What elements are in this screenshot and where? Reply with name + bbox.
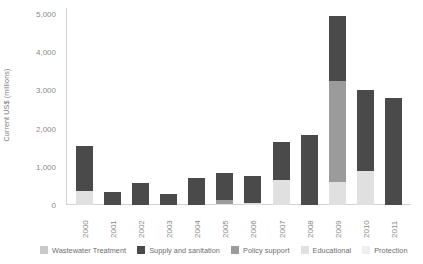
x-tick-label: 2005 [221, 220, 230, 238]
y-tick-label: 3,000 [10, 86, 56, 95]
bar-slot [273, 14, 291, 205]
x-slot: 2007 [273, 205, 291, 245]
bar-slot [329, 14, 347, 205]
legend-label: Policy support [243, 246, 290, 255]
bar-slot [244, 14, 262, 205]
bar-2006[interactable] [244, 176, 261, 205]
legend-label: Wastewater Treatment [52, 246, 126, 255]
bar-segment [160, 194, 177, 205]
bar-2002[interactable] [132, 183, 149, 205]
legend-item[interactable]: Protection [362, 246, 407, 255]
y-tick-label: 4,000 [10, 48, 56, 57]
bar-2007[interactable] [273, 142, 290, 205]
bar-slot [104, 14, 122, 205]
x-tick-label: 2007 [278, 220, 287, 238]
x-tick-label: 2004 [193, 220, 202, 238]
legend-swatch-icon [301, 246, 309, 254]
bar-2003[interactable] [160, 194, 177, 205]
bar-segment [273, 142, 290, 180]
bar-2005[interactable] [216, 173, 233, 205]
bar-2011[interactable] [385, 98, 402, 205]
bar-segment [329, 182, 346, 205]
bar-segment [273, 180, 290, 205]
bar-segment [132, 183, 149, 205]
bar-slot [160, 14, 178, 205]
x-slot: 2003 [160, 205, 178, 245]
x-tick-label: 2000 [81, 220, 90, 238]
bar-segment [329, 81, 346, 182]
y-axis-tick-labels: 01,0002,0003,0004,0005,000 [0, 14, 56, 205]
x-tick-label: 2009 [334, 220, 343, 238]
bar-slot [188, 14, 206, 205]
bar-segment [301, 135, 318, 205]
bar-slot [301, 14, 319, 205]
bar-slot [385, 14, 403, 205]
bar-segment [385, 98, 402, 205]
x-slot: 2008 [301, 205, 319, 245]
legend-item[interactable]: Policy support [231, 246, 290, 255]
x-tick-label: 2003 [165, 220, 174, 238]
bar-segment [188, 178, 205, 205]
x-slot: 2004 [188, 205, 206, 245]
bar-segment [104, 192, 121, 205]
bar-segment [329, 16, 346, 81]
x-slot: 2001 [104, 205, 122, 245]
bar-slot [76, 14, 94, 205]
bar-2009[interactable] [329, 16, 346, 205]
x-tick-label: 2002 [137, 220, 146, 238]
x-slot: 2002 [132, 205, 150, 245]
y-tick-label: 2,000 [10, 124, 56, 133]
legend-label: Supply and sanitation [149, 246, 220, 255]
legend-item[interactable]: Wastewater Treatment [40, 246, 126, 255]
legend-swatch-icon [137, 246, 145, 254]
x-tick-label: 2010 [362, 220, 371, 238]
legend-item[interactable]: Supply and sanitation [137, 246, 220, 255]
x-tick-label: 2001 [109, 220, 118, 238]
x-axis-tick-labels: 2000200120022003200420052006200720082009… [66, 205, 411, 245]
bar-segment [357, 171, 374, 205]
x-tick-label: 2011 [390, 221, 399, 238]
x-slot: 2010 [357, 205, 375, 245]
y-tick-label: 0 [10, 201, 56, 210]
bar-segment [244, 176, 261, 202]
legend-label: Protection [374, 246, 407, 255]
plot-area [66, 14, 411, 205]
bar-segment [76, 191, 93, 205]
bar-2010[interactable] [357, 90, 374, 205]
bar-2000[interactable] [76, 146, 93, 205]
legend-item[interactable]: Educational [301, 246, 352, 255]
y-tick-label: 5,000 [10, 10, 56, 19]
bar-slot [216, 14, 234, 205]
legend-label: Educational [313, 246, 352, 255]
y-tick-label: 1,000 [10, 162, 56, 171]
bar-2004[interactable] [188, 178, 205, 205]
x-tick-label: 2006 [249, 220, 258, 238]
x-tick-label: 2008 [306, 220, 315, 238]
bar-slot [357, 14, 375, 205]
bar-slot [132, 14, 150, 205]
x-slot: 2005 [216, 205, 234, 245]
legend-swatch-icon [231, 246, 239, 254]
bar-segment [357, 90, 374, 170]
legend-swatch-icon [40, 246, 48, 254]
bar-segment [216, 173, 233, 200]
stacked-bar-chart: Current US$ (millions) 01,0002,0003,0004… [0, 0, 423, 264]
x-slot: 2009 [329, 205, 347, 245]
x-slot: 2011 [385, 205, 403, 245]
bar-2008[interactable] [301, 135, 318, 205]
chart-legend: Wastewater TreatmentSupply and sanitatio… [40, 243, 410, 257]
bar-segment [76, 146, 93, 191]
bar-2001[interactable] [104, 192, 121, 205]
x-slot: 2006 [244, 205, 262, 245]
legend-swatch-icon [362, 246, 370, 254]
bar-group [66, 14, 411, 205]
x-slot: 2000 [76, 205, 94, 245]
